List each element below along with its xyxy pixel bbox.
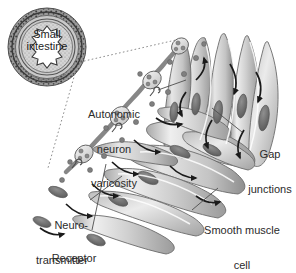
smooth-muscle-cell-label-line1: Smooth muscle (188, 225, 296, 237)
autonomic-neuron-varicosity-label: Autonomic neuron varicosity (68, 86, 160, 213)
smooth-muscle-cell-label-line2: cell (188, 260, 296, 272)
autonomic-label-line2: neuron (68, 144, 160, 156)
autonomic-label-line3: varicosity (68, 178, 160, 190)
receptor-label: Receptor (30, 230, 118, 273)
autonomic-label-line1: Autonomic (68, 109, 160, 121)
gap-junctions-label-line1: Gap (244, 149, 296, 161)
receptor-label-line1: Receptor (30, 253, 118, 265)
small-intestine-label-line2: intestine (12, 40, 82, 52)
small-intestine-label-line1: Small (12, 28, 82, 40)
small-intestine-label: Small intestine (12, 28, 82, 52)
gap-junctions-label-line2: junctions (244, 184, 296, 196)
smooth-muscle-cell-label: Smooth muscle cell (188, 202, 296, 273)
